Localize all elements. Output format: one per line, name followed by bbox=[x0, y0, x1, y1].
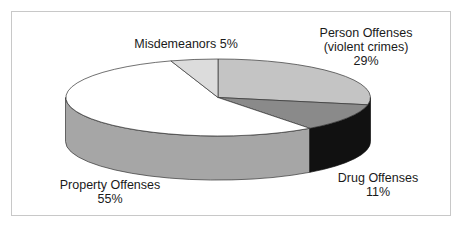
label-drug-line1: Drug Offenses bbox=[334, 171, 422, 185]
label-misdemeanors-text: Misdemeanors 5% bbox=[134, 37, 238, 51]
label-person-offenses: Person Offenses (violent crimes) 29% bbox=[310, 26, 422, 68]
label-person-line2: (violent crimes) bbox=[310, 40, 422, 54]
label-property-pct: 55% bbox=[54, 192, 166, 206]
label-drug-offenses: Drug Offenses 11% bbox=[334, 171, 422, 199]
label-person-line1: Person Offenses bbox=[310, 26, 422, 40]
label-property-offenses: Property Offenses 55% bbox=[54, 178, 166, 206]
label-person-pct: 29% bbox=[310, 54, 422, 68]
label-misdemeanors: Misdemeanors 5% bbox=[134, 37, 238, 51]
label-property-line1: Property Offenses bbox=[54, 178, 166, 192]
label-drug-pct: 11% bbox=[334, 185, 422, 199]
